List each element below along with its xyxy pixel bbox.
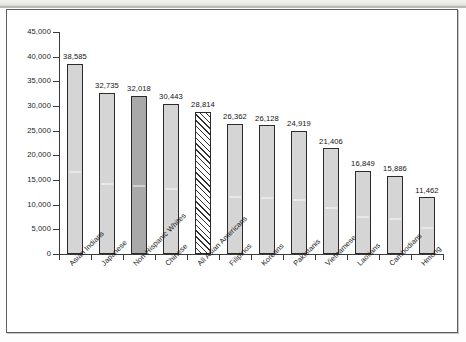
y-axis-tick-label: 25,000	[9, 127, 51, 135]
x-axis-tick	[379, 255, 380, 260]
bar	[131, 96, 147, 254]
scanned-page: 05,00010,00015,00020,00025,00030,00035,0…	[0, 0, 466, 342]
bar	[323, 148, 339, 254]
scan-band-artifact	[261, 197, 273, 199]
y-axis-tick-label: 40,000	[9, 53, 51, 61]
x-axis-tick	[123, 255, 124, 260]
bar-value-label: 32,735	[95, 82, 119, 90]
scan-band-artifact	[357, 216, 369, 218]
y-axis-labels: 05,00010,00015,00020,00025,00030,00035,0…	[7, 10, 51, 334]
y-axis-tick-label: 5,000	[9, 226, 51, 234]
y-axis-tick-label: 0	[9, 250, 51, 258]
x-axis-tick	[59, 255, 60, 260]
chart-figure-frame: 05,00010,00015,00020,00025,00030,00035,0…	[6, 9, 458, 333]
x-axis-tick	[219, 255, 220, 260]
y-axis-tick-label: 30,000	[9, 102, 51, 110]
x-axis-tick	[347, 255, 348, 260]
scan-band-artifact	[229, 196, 241, 198]
scan-band-artifact	[421, 227, 433, 229]
bar	[227, 124, 243, 254]
bar-value-label: 16,849	[351, 160, 375, 168]
bar-value-label: 28,814	[191, 101, 215, 109]
bar-value-label: 32,018	[127, 85, 151, 93]
bar	[259, 125, 275, 254]
bar-value-label: 30,443	[159, 93, 183, 101]
bar-value-label: 26,128	[255, 115, 279, 123]
x-axis-tick	[251, 255, 252, 260]
bar-value-label: 38,585	[63, 53, 87, 61]
x-axis-tick	[411, 255, 412, 260]
x-axis-tick	[91, 255, 92, 260]
bar-value-label: 15,886	[383, 165, 407, 173]
bar-value-label: 11,462	[415, 187, 438, 195]
scan-band-artifact	[101, 183, 113, 185]
bar	[387, 176, 403, 254]
bar-value-label: 21,406	[319, 138, 343, 146]
scan-band-artifact	[325, 207, 337, 209]
y-axis-tick-label: 10,000	[9, 201, 51, 209]
bar	[67, 64, 83, 254]
y-axis-tick-label: 20,000	[9, 152, 51, 160]
y-axis-tick-label: 15,000	[9, 176, 51, 184]
x-axis-tick	[315, 255, 316, 260]
scan-band-artifact	[389, 218, 401, 220]
x-axis-tick	[187, 255, 188, 260]
y-axis-tick-label: 45,000	[9, 28, 51, 36]
bar	[195, 112, 211, 254]
bar	[291, 131, 307, 254]
scan-band-artifact	[293, 199, 305, 201]
y-axis-tick-label: 35,000	[9, 78, 51, 86]
scan-band-artifact	[69, 171, 81, 173]
x-axis-tick	[443, 255, 444, 260]
bar	[99, 93, 115, 254]
bar-value-label: 24,919	[287, 120, 311, 128]
bar	[355, 171, 371, 254]
scan-edge-artifact	[0, 0, 466, 8]
bar	[419, 197, 435, 254]
scan-band-artifact	[133, 185, 145, 187]
plot-area: 38,58532,73532,01830,44328,81426,36226,1…	[59, 32, 443, 254]
scan-band-artifact	[165, 188, 177, 190]
bar-value-label: 26,362	[223, 113, 247, 121]
x-axis-tick	[283, 255, 284, 260]
bar	[163, 104, 179, 254]
x-axis-tick	[155, 255, 156, 260]
